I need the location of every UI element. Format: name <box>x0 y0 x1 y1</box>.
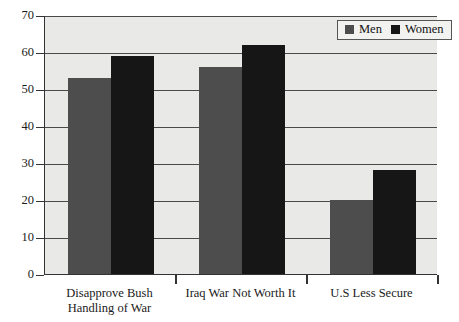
y-tick-50 <box>36 90 44 91</box>
y-tick-label-70: 70 <box>4 9 34 22</box>
y-tick-0 <box>36 275 44 276</box>
y-tick-label-60: 60 <box>4 46 34 59</box>
bar-men-group-0 <box>68 78 111 274</box>
men-swatch-icon <box>345 25 354 34</box>
y-tick-60 <box>36 53 44 54</box>
legend-label-men: Men <box>359 23 382 36</box>
y-tick-label-20: 20 <box>4 194 34 207</box>
legend-entry-men: Men <box>345 23 382 36</box>
bar-women-group-1 <box>242 45 285 274</box>
legend-entry-women: Women <box>391 23 444 36</box>
x-tick-1 <box>175 275 177 284</box>
y-tick-40 <box>36 127 44 128</box>
plot-area <box>44 16 437 275</box>
bar-men-group-2 <box>330 200 373 274</box>
x-tick-end <box>437 275 439 284</box>
y-tick-label-50: 50 <box>4 83 34 96</box>
x-axis-label-1: Iraq War Not Worth It <box>175 286 306 301</box>
legend-label-women: Women <box>405 23 444 36</box>
y-tick-label-30: 30 <box>4 157 34 170</box>
x-tick-2 <box>306 275 308 284</box>
bar-chart: 010203040506070 Disapprove Bush Handling… <box>0 0 459 322</box>
y-tick-20 <box>36 201 44 202</box>
x-axis-label-2: U.S Less Secure <box>306 286 437 301</box>
y-tick-10 <box>36 238 44 239</box>
women-swatch-icon <box>391 25 400 34</box>
y-tick-label-10: 10 <box>4 231 34 244</box>
bar-men-group-1 <box>199 67 242 274</box>
x-axis-label-0: Disapprove Bush Handling of War <box>44 286 175 316</box>
y-tick-label-0: 0 <box>4 268 34 281</box>
legend: Men Women <box>337 20 452 40</box>
bar-women-group-0 <box>111 56 154 274</box>
bar-women-group-2 <box>373 170 416 274</box>
gridline-70 <box>45 16 437 17</box>
y-tick-label-40: 40 <box>4 120 34 133</box>
y-tick-30 <box>36 164 44 165</box>
y-tick-70 <box>36 16 44 17</box>
